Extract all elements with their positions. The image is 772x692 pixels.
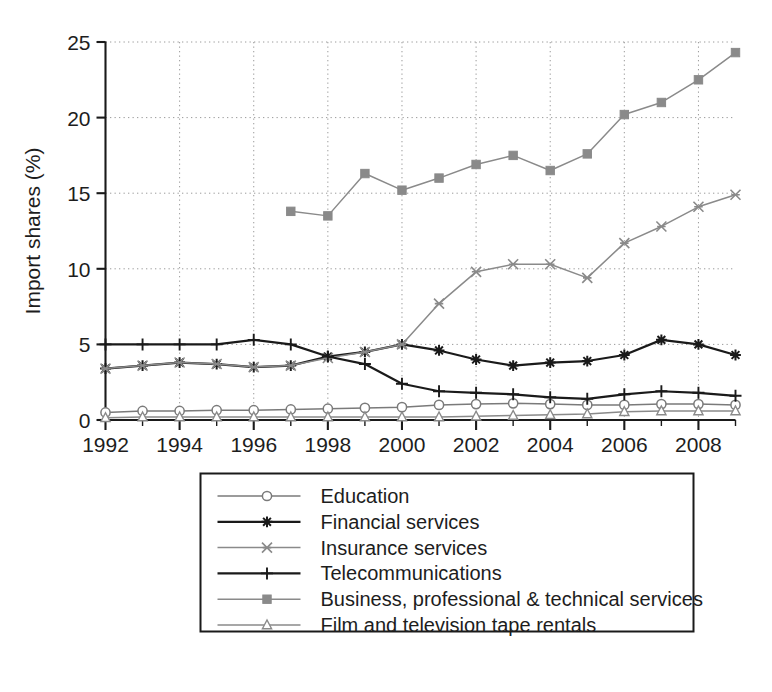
series-marker	[731, 48, 739, 56]
series-marker	[361, 169, 369, 177]
series-marker	[434, 400, 443, 409]
x-tick-label: 1998	[304, 433, 351, 456]
series-marker	[620, 110, 628, 118]
x-tick-label: 1996	[230, 433, 277, 456]
series-marker	[583, 150, 591, 158]
series-marker	[730, 350, 741, 361]
series-marker	[619, 350, 630, 361]
series-marker	[656, 334, 667, 345]
x-tick-label: 1992	[82, 433, 129, 456]
series-marker	[398, 186, 406, 194]
series-marker	[471, 354, 482, 365]
y-tick-label: 0	[79, 409, 91, 432]
y-axis-label: Import shares (%)	[21, 148, 44, 315]
series-marker	[546, 166, 554, 174]
x-tick-label: 2004	[527, 433, 574, 456]
x-tick-label: 2000	[379, 433, 426, 456]
series-marker	[508, 360, 519, 371]
x-tick-label: 1994	[156, 433, 203, 456]
series-marker	[657, 98, 665, 106]
y-tick-label: 25	[67, 31, 90, 54]
series-marker	[287, 207, 295, 215]
y-tick-label: 5	[79, 333, 91, 356]
x-tick-label: 2002	[453, 433, 500, 456]
series-marker	[434, 345, 445, 356]
legend-label: Insurance services	[321, 537, 488, 559]
series-marker	[694, 76, 702, 84]
y-tick-label: 15	[67, 182, 90, 205]
series-marker	[324, 212, 332, 220]
legend-sample-marker	[262, 516, 273, 527]
import-shares-line-chart: 0510152025199219941996199820002002200420…	[0, 0, 772, 692]
series-marker	[693, 339, 704, 350]
x-tick-label: 2006	[601, 433, 648, 456]
chart-legend: EducationFinancial servicesInsurance ser…	[201, 474, 703, 637]
legend-sample-marker	[263, 595, 271, 603]
legend-sample-marker	[262, 491, 271, 500]
legend-label: Film and television tape rentals	[321, 614, 597, 636]
legend-label: Financial services	[321, 511, 480, 533]
chart-figure: 0510152025199219941996199820002002200420…	[0, 0, 772, 692]
legend-label: Education	[321, 485, 410, 507]
legend-label: Telecommunications	[321, 562, 502, 584]
y-tick-label: 20	[67, 107, 90, 130]
series-marker	[545, 357, 556, 368]
series-marker	[397, 403, 406, 412]
y-axis-title: Import shares (%)	[21, 148, 44, 315]
legend-label: Business, professional & technical servi…	[321, 588, 703, 610]
x-tick-label: 2008	[675, 433, 722, 456]
series-marker	[472, 160, 480, 168]
series-marker	[435, 174, 443, 182]
series-marker	[471, 400, 480, 409]
y-tick-label: 10	[67, 258, 90, 281]
series-marker	[509, 151, 517, 159]
series-marker	[582, 356, 593, 367]
